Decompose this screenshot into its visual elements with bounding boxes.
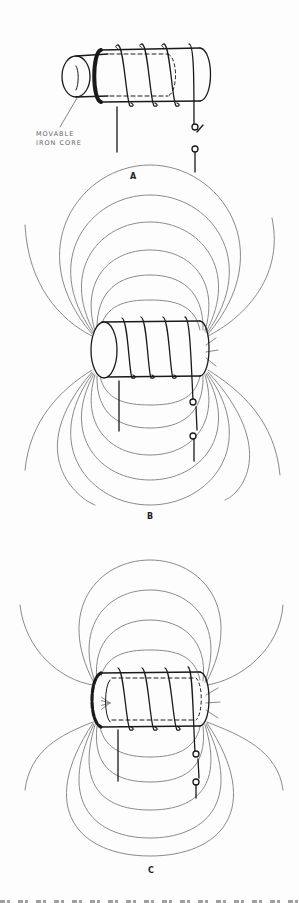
callout-line-1: MOVABLE xyxy=(36,130,82,139)
panel-b-solenoid xyxy=(91,317,209,461)
panel-c-solenoid xyxy=(92,667,209,798)
panel-b-field-lines xyxy=(25,165,280,505)
callout-pointer xyxy=(60,98,77,127)
caption-cropped xyxy=(0,897,299,903)
panel-label-b: B xyxy=(147,512,153,521)
panel-label-c: C xyxy=(148,866,154,875)
panel-label-a: A xyxy=(130,172,136,181)
callout-movable-iron-core: MOVABLE IRON CORE xyxy=(36,130,82,148)
panel-a-solenoid xyxy=(62,44,211,172)
callout-line-2: IRON CORE xyxy=(36,139,82,148)
panel-c-field-lines xyxy=(20,560,283,856)
